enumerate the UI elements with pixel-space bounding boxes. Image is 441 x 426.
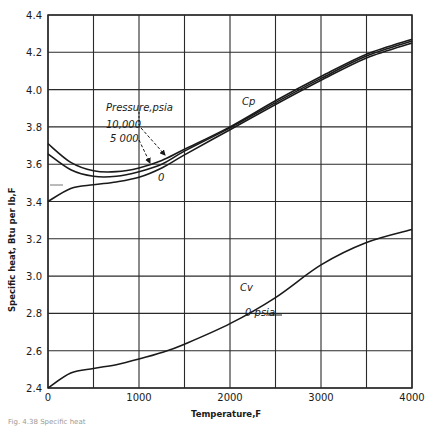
x-tick-label: 1000 (126, 392, 151, 403)
cv-label: Cv (240, 282, 254, 293)
x-tick-label: 0 (45, 392, 51, 403)
y-tick-label: 2.8 (26, 308, 42, 319)
y-axis-label: Specific heat, Btu per lb,F (7, 187, 17, 312)
y-tick-label: 3.4 (26, 197, 42, 208)
specific-heat-chart: 2.42.62.83.03.23.43.63.84.04.24.4 010002… (0, 0, 441, 426)
pressure-10000-label: 10,000 (106, 119, 141, 130)
y-tick-labels: 2.42.62.83.03.23.43.63.84.04.24.4 (26, 10, 42, 394)
x-tick-label: 2000 (217, 392, 242, 403)
y-tick-label: 4.4 (26, 10, 42, 21)
pressure-0-label: 0 (158, 172, 164, 183)
pressure-header-label: Pressure,psia (106, 102, 173, 113)
x-tick-label: 3000 (308, 392, 333, 403)
y-tick-label: 2.4 (26, 383, 42, 394)
x-tick-labels: 01000200030004000 (45, 392, 425, 403)
y-tick-label: 4.2 (26, 47, 42, 58)
figure-caption: Fig. 4.38 Specific heat (8, 418, 86, 426)
y-tick-label: 3.6 (26, 159, 42, 170)
y-tick-label: 4.0 (26, 85, 42, 96)
y-tick-label: 3.0 (26, 271, 42, 282)
cp-label: Cp (242, 96, 255, 107)
y-tick-label: 3.2 (26, 234, 42, 245)
pressure-5000-label: 5 000 (110, 133, 139, 144)
x-tick-label: 4000 (399, 392, 424, 403)
cv-0-psia-label: 0 psia (245, 307, 275, 318)
y-tick-label: 3.8 (26, 122, 42, 133)
y-tick-label: 2.6 (26, 346, 42, 357)
grid-lines (48, 15, 412, 388)
arrow-5000 (139, 140, 150, 163)
x-axis-label: Temperature,F (191, 409, 261, 419)
